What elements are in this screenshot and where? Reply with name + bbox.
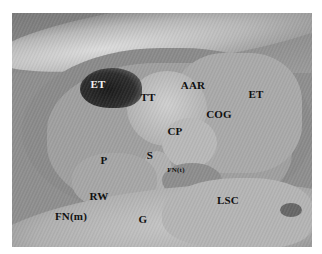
label-et-left: ET — [90, 79, 105, 90]
label-aar: AAR — [181, 80, 205, 91]
label-lsc: LSC — [217, 195, 239, 206]
label-fn-t: FN(t) — [167, 167, 184, 174]
label-et-right: ET — [248, 89, 263, 100]
label-tt: TT — [140, 92, 155, 103]
label-cog: COG — [206, 109, 232, 120]
label-fn-m: FN(m) — [55, 211, 87, 222]
label-g: G — [139, 214, 148, 225]
eustachian-tube-opening — [80, 68, 142, 108]
label-cp: CP — [167, 126, 182, 137]
label-p: P — [101, 155, 108, 166]
label-s: S — [147, 150, 153, 161]
dark-pit-right — [280, 203, 302, 217]
label-rw: RW — [90, 191, 109, 202]
